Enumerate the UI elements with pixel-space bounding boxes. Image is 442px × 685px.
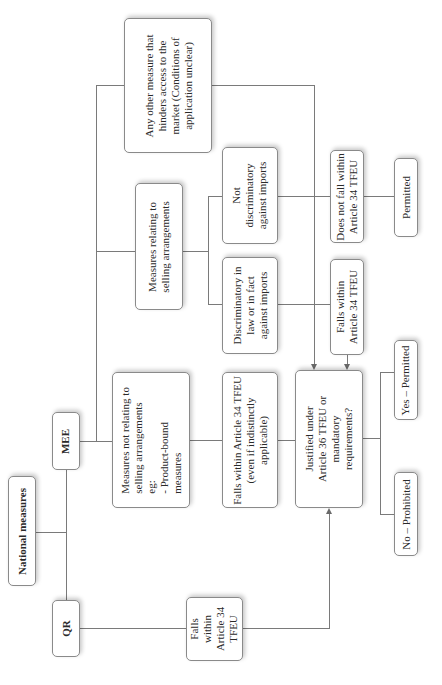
node-not-selling-arrangements: Measures not relating to selling arrange… (112, 372, 190, 508)
node-mee: MEE (52, 412, 80, 470)
connector-mee-spine (96, 85, 97, 441)
connector-justified-right (363, 438, 380, 439)
connector-discrim-to-falls-within (278, 304, 330, 305)
node-falls-within-indistinct: Falls within Article 34 TFEU (even if in… (222, 372, 278, 508)
node-falls-within-discrim: Falls within Article 34 TFEU (330, 259, 364, 355)
node-label: Measures not relating to selling arrange… (119, 387, 184, 494)
node-no-prohibited: No – Prohibited (394, 472, 418, 556)
connector-to-selling (96, 251, 135, 252)
connector-selling-right (183, 251, 208, 252)
connector-mee-to-spine (80, 441, 112, 442)
node-qr-falls-within: Falls within Article 34 TFEU (186, 597, 243, 661)
node-label: Falls within Article 34 TFEU (189, 607, 241, 651)
node-not-discriminatory: Not discriminatory against imports (222, 147, 278, 244)
node-label: Justified under Article 36 TFEU or manda… (303, 396, 355, 482)
node-label: Does not fall within Article 34 TFEU (334, 153, 360, 241)
connector-yes-no-bracket (380, 372, 381, 514)
node-national-measures: National measures (8, 476, 36, 586)
node-label: Any other measure that hinders access to… (142, 34, 194, 137)
connector-selling-bracket (208, 196, 209, 304)
connector-does-not-fall-to-permitted (364, 196, 394, 197)
connector-to-no (380, 514, 394, 515)
node-label: Discriminatory in law or in fact against… (231, 267, 270, 345)
node-discriminatory: Discriminatory in law or in fact against… (222, 257, 278, 354)
node-qr: QR (52, 600, 80, 657)
connector-not-selling-to-falls-within (190, 440, 222, 441)
node-label: National measures (16, 488, 29, 575)
node-label: Yes – Permitted (400, 345, 413, 415)
node-selling-arrangements: Measures relating to selling arrangement… (135, 183, 183, 310)
node-yes-permitted: Yes – Permitted (394, 340, 418, 420)
node-label: MEE (60, 428, 73, 453)
node-label: No – Prohibited (400, 479, 413, 549)
connector-any-other-down (314, 85, 315, 364)
connector-not-discrim-to-does-not-fall (278, 196, 330, 197)
connector-qr-to-falls-within (80, 628, 186, 629)
connector-qr-up (329, 514, 330, 628)
connector-to-discrim (208, 304, 222, 305)
node-label: QR (60, 620, 73, 637)
node-label: Not discriminatory against imports (231, 162, 270, 230)
connector-qr-falls-within-right (243, 628, 330, 629)
connector-falls-within-down (347, 355, 348, 364)
connector-to-yes (380, 372, 394, 373)
node-justified: Justified under Article 36 TFEU or manda… (295, 370, 363, 508)
connector-any-other-right (212, 85, 315, 86)
node-permitted: Permitted (394, 158, 418, 237)
node-label: Falls within Article 34 TFEU (334, 270, 360, 344)
connector-to-any-other (96, 85, 124, 86)
connector-spine-qr-mee (66, 470, 67, 600)
node-label: Falls within Article 34 TFEU (even if in… (231, 376, 270, 505)
connector-national-to-spine (36, 532, 66, 533)
node-label: Measures relating to selling arrangement… (146, 201, 172, 292)
node-label: Permitted (400, 176, 413, 219)
node-does-not-fall-within: Does not fall within Article 34 TFEU (330, 150, 364, 243)
node-any-other-measure: Any other measure that hinders access to… (124, 18, 212, 153)
connector-falls-indistinct-to-justified (278, 440, 295, 441)
connector-to-not-discrim (208, 196, 222, 197)
arrow-qr-to-justified (326, 508, 332, 514)
